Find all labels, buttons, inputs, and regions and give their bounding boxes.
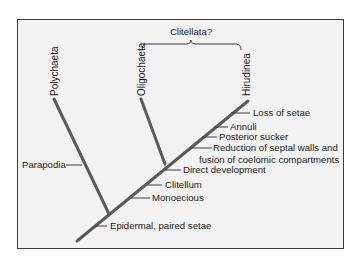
char-annuli: Annuli xyxy=(230,121,257,132)
char-clitellum: Clitellum xyxy=(165,179,202,190)
char-direct-development: Direct development xyxy=(183,164,266,175)
taxon-hirudinea: Hirudinea xyxy=(241,53,252,96)
char-reduction-septal: Reduction of septal walls and xyxy=(213,142,338,153)
clitellata-label: Clitellata? xyxy=(170,26,212,37)
taxon-polychaeta: Polychaeta xyxy=(49,46,60,96)
polychaeta-branch xyxy=(54,99,109,214)
clitellata-bracket xyxy=(142,40,241,50)
char-monoecious: Monoecious xyxy=(152,192,204,203)
oligochaeta-branch xyxy=(141,99,165,164)
taxon-oligochaeta: Oligochaeta xyxy=(136,42,147,96)
char-reduction-septal-cont: fusion of coelomic compartments xyxy=(199,154,339,165)
char-parapodia: Parapodia xyxy=(22,159,66,170)
char-loss-of-setae: Loss of setae xyxy=(253,107,310,118)
cladogram: Clitellata? Polychaeta Oligochaeta Hirud… xyxy=(0,0,359,265)
char-posterior-sucker: Posterior sucker xyxy=(219,131,289,142)
char-epidermal-setae: Epidermal, paired setae xyxy=(110,220,211,231)
